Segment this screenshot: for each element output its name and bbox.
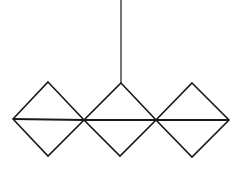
horizontal-diagonal-group	[13, 119, 229, 120]
three-diamond-hanging-figure	[0, 0, 244, 172]
diagram-canvas	[0, 0, 244, 172]
horizontal-diagonal-1	[13, 119, 84, 120]
